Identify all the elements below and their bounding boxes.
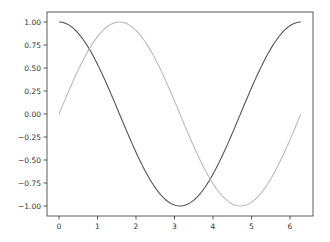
y-tick-label: 0.25 [24,87,41,96]
x-tick-label: 0 [57,222,62,231]
line-chart: 0123456 1.000.750.500.250.00−0.25−0.50−0… [0,0,330,242]
x-tick-label: 4 [211,222,216,231]
y-tick-label: 0.00 [24,110,41,119]
y-tick-label: 0.75 [24,41,41,50]
y-tick-label: −0.75 [18,179,41,188]
y-axis: 1.000.750.500.250.00−0.25−0.50−0.75−1.00 [18,18,47,211]
x-axis: 0123456 [57,216,293,231]
y-tick-label: 1.00 [24,18,41,27]
y-tick-label: −1.00 [18,202,41,211]
x-tick-label: 2 [134,222,139,231]
x-tick-label: 5 [249,222,254,231]
x-tick-label: 1 [95,222,100,231]
y-tick-label: −0.25 [18,133,41,142]
y-tick-label: 0.50 [24,64,41,73]
y-tick-label: −0.50 [18,156,41,165]
x-tick-label: 6 [288,222,293,231]
x-tick-label: 3 [172,222,177,231]
